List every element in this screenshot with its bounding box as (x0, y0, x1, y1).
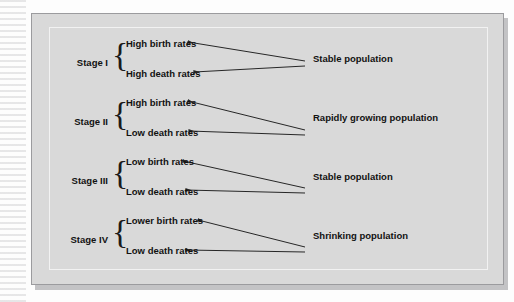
arrow-group-stage-3 (183, 161, 305, 193)
arrow-group-stage-2 (188, 101, 305, 135)
arrow-stage-4-to-factor-1 (198, 220, 305, 247)
arrow-group-stage-1 (188, 42, 305, 72)
stage-label-1: Stage I (28, 57, 108, 68)
outcome-stage-1: Stable population (313, 53, 393, 64)
arrow-stage-4-to-factor-2 (186, 250, 305, 252)
arrow-stage-3-to-factor-2 (186, 190, 305, 193)
outcome-stage-2: Rapidly growing population (313, 112, 438, 123)
arrow-stage-1-to-factor-2 (194, 66, 305, 72)
outcome-stage-4: Shrinking population (313, 230, 408, 241)
arrow-stage-2-to-factor-1 (188, 101, 305, 130)
factor-stage-3-death: Low death rates (126, 186, 198, 197)
factor-stage-4-death: Low death rates (126, 245, 198, 256)
arrow-stage-2-to-factor-2 (189, 131, 305, 135)
page-bleed-through-text (0, 0, 26, 302)
stage-label-2: Stage II (28, 116, 108, 127)
scanned-page: Stage I { High birth rates High death ra… (0, 0, 514, 302)
demographic-transition-diagram: Stage I { High birth rates High death ra… (31, 13, 504, 285)
arrow-group-stage-4 (186, 220, 305, 252)
arrow-stage-3-to-factor-1 (183, 161, 305, 188)
stage-label-4: Stage IV (28, 234, 108, 245)
arrow-stage-1-to-factor-1 (188, 42, 305, 61)
factor-stage-2-death: Low death rates (126, 127, 198, 138)
stage-label-3: Stage III (28, 175, 108, 186)
factor-stage-2-birth: High birth rates (126, 97, 196, 108)
factor-stage-1-death: High death rates (126, 68, 200, 79)
outcome-stage-3: Stable population (313, 171, 393, 182)
factor-stage-1-birth: High birth rates (126, 38, 196, 49)
factor-stage-3-birth: Low birth rates (126, 156, 194, 167)
factor-stage-4-birth: Lower birth rates (126, 215, 203, 226)
